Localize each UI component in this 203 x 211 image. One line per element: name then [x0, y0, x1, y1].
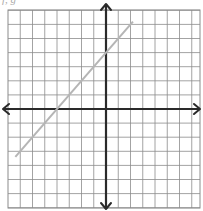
coordinate-grid [0, 0, 203, 211]
plotted-line [15, 22, 133, 157]
